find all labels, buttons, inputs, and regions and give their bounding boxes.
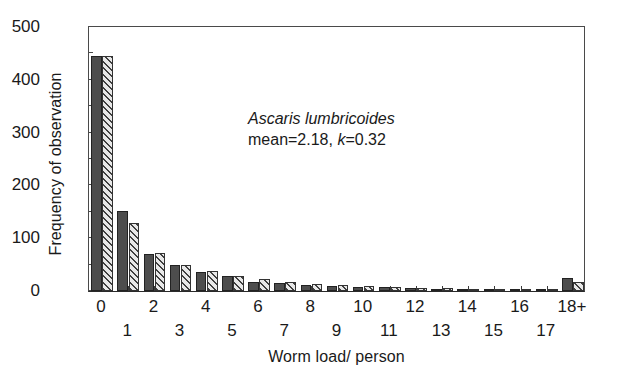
x-axis-tick-label: 16 — [497, 298, 543, 315]
bar-fitted — [233, 276, 244, 291]
x-axis-tick — [468, 286, 469, 291]
bar-observed — [457, 289, 468, 291]
bar-group — [431, 27, 453, 291]
x-axis-tick-label: 1 — [104, 322, 150, 339]
x-axis-tick-label: 9 — [314, 322, 360, 339]
bar-fitted — [207, 271, 218, 291]
bar-observed — [510, 289, 521, 291]
x-axis-tick — [233, 286, 234, 291]
bar-observed — [91, 56, 102, 291]
bar-fitted — [442, 288, 453, 291]
bar-group — [274, 27, 296, 291]
x-axis-title: Worm load/ person — [88, 348, 585, 366]
x-axis-tick-label: 17 — [523, 322, 569, 339]
bar-group — [170, 27, 192, 291]
annotation-stats: mean=2.18, k=0.32 — [248, 129, 395, 150]
x-axis-tick-label: 5 — [209, 322, 255, 339]
bar-group — [405, 27, 427, 291]
annotation-k-value: =0.32 — [345, 131, 385, 148]
bar-group — [301, 27, 323, 291]
bar-fitted — [390, 287, 401, 291]
bar-group — [117, 27, 139, 291]
x-axis-tick-label: 11 — [366, 322, 412, 339]
x-axis-tick — [285, 286, 286, 291]
x-axis-tick — [311, 286, 312, 291]
bar-group — [196, 27, 218, 291]
x-axis-tick — [128, 286, 129, 291]
bar-observed — [327, 286, 338, 291]
annotation-species: Ascaris lumbricoides — [248, 108, 395, 129]
chart-figure: Frequency of observation 010020030040050… — [0, 0, 626, 383]
x-axis-tick — [494, 286, 495, 291]
y-axis-title: Frequency of observation — [47, 34, 65, 294]
x-axis-tick — [416, 286, 417, 291]
x-axis-tick — [442, 286, 443, 291]
bar-group — [510, 27, 532, 291]
bar-group — [353, 27, 375, 291]
bar-group — [248, 27, 270, 291]
bar-observed — [117, 211, 128, 291]
x-axis-tick-label: 12 — [392, 298, 438, 315]
x-axis-tick-label: 13 — [418, 322, 464, 339]
x-axis-tick-label: 15 — [470, 322, 516, 339]
bar-fitted — [469, 289, 480, 291]
bar-observed — [196, 272, 207, 291]
x-axis-tick — [390, 286, 391, 291]
x-axis-tick — [573, 286, 574, 291]
x-axis-tick-label: 14 — [444, 298, 490, 315]
bar-observed — [222, 276, 233, 291]
x-axis-tick-label: 18+ — [549, 298, 595, 315]
x-axis-tick — [547, 286, 548, 291]
x-axis-tick — [181, 286, 182, 291]
bar-group — [91, 27, 113, 291]
bar-group — [222, 27, 244, 291]
plot-area: 0100200300400500 — [88, 26, 585, 292]
bar-fitted — [495, 289, 506, 291]
x-axis-tick — [259, 286, 260, 291]
y-axis-tick-label: 200 — [0, 176, 40, 193]
bar-observed — [484, 289, 495, 291]
chart-annotation: Ascaris lumbricoides mean=2.18, k=0.32 — [248, 108, 395, 151]
bar-group — [379, 27, 401, 291]
bar-group — [327, 27, 349, 291]
bar-fitted — [155, 253, 166, 291]
y-axis-tick-label: 300 — [0, 124, 40, 141]
x-axis-tick — [207, 286, 208, 291]
bar-fitted — [259, 279, 270, 291]
bar-observed — [274, 283, 285, 291]
bar-observed — [301, 285, 312, 291]
bar-observed — [405, 288, 416, 291]
y-axis-tick-label: 500 — [0, 18, 40, 35]
bar-group — [457, 27, 479, 291]
x-axis-tick-label: 2 — [130, 298, 176, 315]
y-axis-tick-label: 400 — [0, 71, 40, 88]
x-axis-tick-label: 4 — [183, 298, 229, 315]
bar-fitted — [416, 288, 427, 291]
bar-observed — [144, 254, 155, 291]
x-axis-tick-label: 6 — [235, 298, 281, 315]
bar-group — [144, 27, 166, 291]
x-axis-tick-label: 8 — [287, 298, 333, 315]
bar-observed — [379, 287, 390, 291]
bar-fitted — [312, 284, 323, 291]
bar-fitted — [102, 56, 113, 291]
annotation-mean: mean=2.18, — [248, 131, 337, 148]
bar-fitted — [521, 289, 532, 291]
bar-fitted — [364, 286, 375, 291]
x-axis-tick-label: 7 — [261, 322, 307, 339]
x-axis-tick — [154, 286, 155, 291]
bar-fitted — [573, 282, 584, 292]
bar-observed — [353, 287, 364, 291]
bar-group — [562, 27, 584, 291]
x-axis-tick-label: 10 — [340, 298, 386, 315]
y-axis-tick-label: 100 — [0, 229, 40, 246]
bar-fitted — [285, 282, 296, 291]
x-axis-tick — [102, 286, 103, 291]
bar-observed — [431, 289, 442, 291]
bar-fitted — [181, 265, 192, 291]
bar-fitted — [129, 223, 140, 291]
bar-fitted — [547, 289, 558, 291]
y-axis-tick-label: 0 — [0, 282, 40, 299]
bar-fitted — [338, 285, 349, 291]
bar-group — [484, 27, 506, 291]
